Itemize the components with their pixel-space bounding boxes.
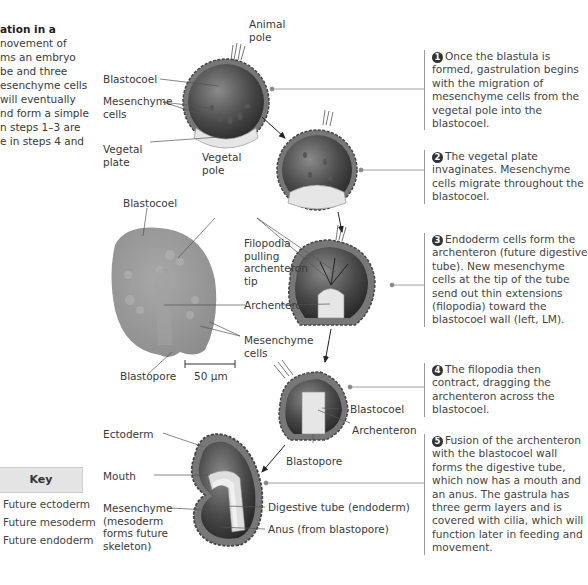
key-item-mesoderm: Future mesoderm bbox=[3, 516, 96, 529]
label-vegetal-pole: Vegetalpole bbox=[202, 151, 241, 176]
key-header: Key bbox=[0, 467, 83, 493]
step-number-badge: 3 bbox=[432, 235, 443, 246]
label-vegetal-plate: Vegetalplate bbox=[103, 143, 142, 168]
label-digestive-tube: Digestive tube (endoderm) bbox=[268, 501, 410, 514]
step-5: 5Fusion of the archenteron with the blas… bbox=[424, 434, 588, 555]
stage1-blastula bbox=[183, 43, 269, 148]
step-2: 2The vegetal plate invaginates. Mesenchy… bbox=[424, 150, 588, 204]
step-number-badge: 1 bbox=[432, 52, 443, 63]
label-blastocoel-4: Blastocoel bbox=[350, 403, 404, 416]
scale-bar bbox=[185, 360, 235, 368]
step-number-badge: 5 bbox=[432, 436, 443, 447]
key-item-ectoderm: Future ectoderm bbox=[3, 498, 90, 511]
stage2-invagination bbox=[277, 110, 357, 210]
label-blastopore-lm: Blastopore bbox=[120, 370, 176, 383]
label-blastopore-4: Blastopore bbox=[286, 455, 342, 468]
label-archenteron-4: Archenteron bbox=[352, 424, 417, 437]
label-mesenchyme-5: Mesenchyme(mesodermforms futureskeleton) bbox=[103, 502, 172, 552]
label-animal-pole: Animalpole bbox=[249, 18, 285, 43]
step-4: 4The filopodia then contract, dragging t… bbox=[424, 363, 588, 417]
label-anus: Anus (from blastopore) bbox=[268, 523, 389, 536]
step-number-badge: 2 bbox=[432, 152, 443, 163]
label-filopodia: Filopodiapullingarchenterontip bbox=[244, 237, 308, 287]
label-scale-bar: 50 µm bbox=[194, 370, 228, 383]
label-blastocoel-lm: Blastocoel bbox=[123, 197, 177, 210]
label-blastocoel-1: Blastocoel bbox=[103, 73, 157, 86]
key-item-endoderm: Future endoderm bbox=[3, 534, 93, 547]
label-mesenchyme-cells-lm: Mesenchymecells bbox=[244, 334, 313, 359]
step-text: Fusion of the archenteron with the blast… bbox=[432, 434, 583, 553]
step-text: The filopodia then contract, dragging th… bbox=[432, 363, 554, 415]
stage4-filopodia-contract bbox=[274, 360, 348, 440]
stage5-gastrula bbox=[192, 434, 263, 546]
step-text: The vegetal plate invaginates. Mesenchym… bbox=[432, 150, 584, 202]
label-ectoderm: Ectoderm bbox=[103, 428, 153, 441]
label-mesenchyme-cells-1: Mesenchymecells bbox=[103, 95, 172, 120]
label-mouth: Mouth bbox=[103, 470, 136, 483]
step-text: Endoderm cells form the archenteron (fut… bbox=[432, 233, 588, 325]
step-1: 1Once the blastula is formed, gastrulati… bbox=[424, 50, 588, 130]
step-3: 3Endoderm cells form the archenteron (fu… bbox=[424, 233, 588, 327]
label-archenteron-3: Archenteron bbox=[244, 299, 309, 312]
step-text: Once the blastula is formed, gastrulatio… bbox=[432, 50, 579, 129]
step-number-badge: 4 bbox=[432, 365, 443, 376]
light-micrograph bbox=[112, 228, 217, 357]
